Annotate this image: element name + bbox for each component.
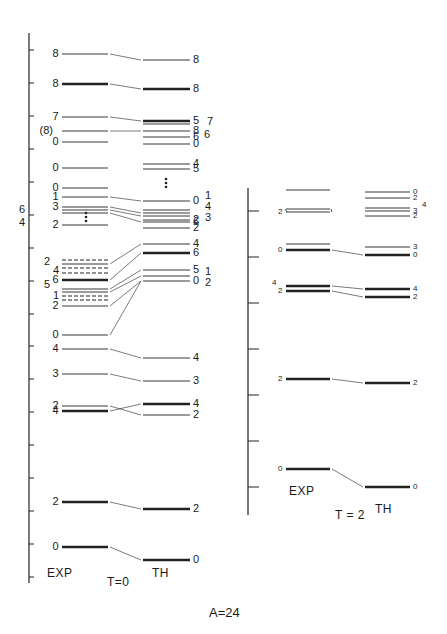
figure-title: A=24 bbox=[209, 605, 240, 620]
level-connector-line bbox=[110, 374, 141, 381]
exp-side-spin-label: 4 bbox=[53, 265, 59, 276]
th-level-spin-label: 0 bbox=[193, 275, 199, 286]
th-level-spin-label: 0 bbox=[193, 138, 199, 149]
level-connector-line bbox=[110, 197, 141, 201]
exp-level-spin-label: 4 bbox=[53, 405, 59, 416]
th-level-spin-label: 0 bbox=[193, 554, 199, 565]
level-connector-line bbox=[332, 379, 363, 383]
ellipsis-dot bbox=[165, 186, 168, 189]
th-level-spin-label: 8 bbox=[193, 54, 199, 65]
th-level-spin-label: 8 bbox=[193, 83, 199, 94]
exp-level-spin-label: 2 bbox=[278, 375, 282, 383]
exp-level-spin-label: 4 bbox=[53, 343, 59, 354]
th-level-spin-label: 2 bbox=[193, 503, 199, 514]
th-level-spin-label: 2 bbox=[193, 222, 199, 233]
th-side-spin-label: 3 bbox=[205, 212, 211, 223]
exp-level-spin-label: 2 bbox=[53, 300, 59, 311]
exp-side-spin-label: 1 bbox=[53, 290, 59, 301]
th-level-spin-label: 0 bbox=[413, 483, 417, 491]
bracket-mark bbox=[331, 209, 332, 212]
level-connector-line bbox=[110, 54, 141, 60]
exp-level-spin-label: 2 bbox=[278, 287, 282, 295]
level-connector-line bbox=[110, 270, 141, 289]
level-connector-line bbox=[110, 210, 141, 216]
exp-level-spin-label: 0 bbox=[278, 465, 282, 473]
level-connector-line bbox=[110, 253, 141, 280]
exp-side-spin-label: 5 bbox=[44, 279, 50, 290]
exp-side-spin-label: 4 bbox=[19, 217, 25, 228]
th-level-spin-label: 2 bbox=[413, 379, 417, 387]
exp-side-spin-label: 6 bbox=[19, 204, 25, 215]
th-level-spin-label: 2 bbox=[413, 194, 417, 202]
th-level-spin-label: 4 bbox=[193, 352, 199, 363]
ellipsis-dot bbox=[85, 220, 88, 223]
level-connector-line bbox=[332, 286, 363, 289]
level-connector-line bbox=[110, 349, 141, 358]
level-connector-line bbox=[110, 84, 141, 89]
t0-exp-label: EXP bbox=[47, 566, 73, 580]
th-level-spin-label: 2 bbox=[413, 293, 417, 301]
th-level-spin-label: 5 bbox=[193, 163, 199, 174]
t2-isospin-label: T = 2 bbox=[335, 508, 365, 522]
exp-level-spin-label: 0 bbox=[53, 136, 59, 147]
exp-level-spin-label: 0 bbox=[278, 246, 282, 254]
exp-level-spin-label: 2 bbox=[278, 208, 282, 216]
t2-exp-label: EXP bbox=[289, 484, 315, 498]
exp-level-spin-label: 8 bbox=[53, 78, 59, 89]
th-level-spin-label: 2 bbox=[413, 212, 417, 220]
level-connector-line bbox=[110, 281, 141, 306]
th-level-spin-label: 0 bbox=[193, 195, 199, 206]
th-side-spin-label: 2 bbox=[205, 277, 211, 288]
th-level-spin-label: 3 bbox=[193, 375, 199, 386]
exp-level-spin-label: 7 bbox=[53, 111, 59, 122]
ellipsis-dot bbox=[165, 178, 168, 181]
level-connector-line bbox=[332, 250, 363, 255]
level-connector-line bbox=[332, 469, 363, 487]
ellipsis-dot bbox=[85, 212, 88, 215]
th-side-spin-label: 7 bbox=[207, 116, 213, 127]
ellipsis-dot bbox=[85, 216, 88, 219]
level-connector-line bbox=[110, 281, 141, 335]
t0-isospin-label: T=0 bbox=[107, 575, 130, 589]
exp-level-spin-label: 3 bbox=[53, 201, 59, 212]
level-connector-line bbox=[110, 213, 141, 222]
exp-level-spin-label: (8) bbox=[40, 125, 53, 136]
level-connector-line bbox=[110, 117, 141, 121]
exp-level-spin-label: 0 bbox=[53, 162, 59, 173]
t2-th-label: TH bbox=[375, 502, 392, 516]
ellipsis-dot bbox=[165, 182, 168, 185]
level-connector-line bbox=[332, 291, 363, 297]
th-level-spin-label: 6 bbox=[193, 247, 199, 258]
exp-side-spin-label: 4 bbox=[272, 279, 276, 287]
level-connector-line bbox=[110, 244, 141, 264]
exp-level-spin-label: 0 bbox=[53, 541, 59, 552]
exp-level-spin-label: 0 bbox=[53, 329, 59, 340]
level-scheme-diagram bbox=[0, 0, 447, 634]
th-level-spin-label: 2 bbox=[193, 409, 199, 420]
exp-side-spin-label: 2 bbox=[44, 256, 50, 267]
exp-level-spin-label: 8 bbox=[53, 48, 59, 59]
level-connector-line bbox=[110, 547, 141, 560]
exp-level-spin-label: 3 bbox=[53, 368, 59, 379]
th-side-spin-label: 6 bbox=[204, 129, 210, 140]
level-connector-line bbox=[110, 207, 141, 213]
level-connector-line bbox=[110, 502, 141, 509]
t0-th-label: TH bbox=[152, 566, 169, 580]
exp-level-spin-label: 2 bbox=[53, 496, 59, 507]
exp-level-spin-label: 2 bbox=[53, 219, 59, 230]
th-level-spin-label: 0 bbox=[413, 251, 417, 259]
th-side-spin-label: 4 bbox=[422, 201, 426, 209]
